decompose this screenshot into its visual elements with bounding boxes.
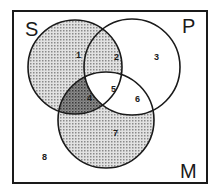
region-label-1: 1 — [76, 50, 81, 60]
region-label-7: 7 — [113, 128, 118, 138]
set-label-p: P — [182, 15, 195, 37]
region-label-3: 3 — [154, 52, 159, 62]
region-label-2: 2 — [114, 52, 119, 62]
region-label-5: 5 — [111, 84, 116, 94]
region-label-4: 4 — [87, 93, 92, 103]
set-label-m: M — [180, 160, 197, 182]
region-label-6: 6 — [135, 94, 140, 104]
set-label-s: S — [25, 18, 38, 40]
region-label-8: 8 — [42, 152, 47, 162]
venn-diagram: S P M 1 2 3 4 5 6 7 8 — [0, 0, 216, 194]
